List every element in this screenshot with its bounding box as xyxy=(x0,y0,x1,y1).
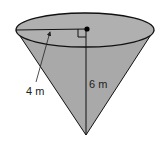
center-point xyxy=(84,26,89,31)
radius-label: 4 m xyxy=(26,85,44,97)
cone-diagram: 4 m 6 m xyxy=(0,0,164,143)
height-label: 6 m xyxy=(89,78,107,90)
